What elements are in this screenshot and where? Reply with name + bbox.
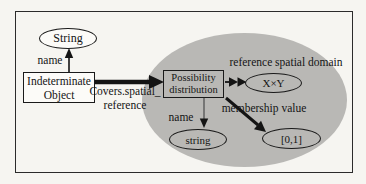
- node-spatial-domain: X×Y: [245, 73, 302, 93]
- node-possibility-distribution-label-line1: Possibility: [171, 72, 215, 85]
- node-unit-interval: [0,1]: [262, 128, 321, 149]
- name-arrow-top: [65, 48, 73, 72]
- node-spatial-domain-label: X×Y: [262, 77, 284, 89]
- label-covers-line1: Covers.spatial_: [89, 85, 160, 97]
- label-name-top: name: [38, 54, 63, 68]
- node-string-class-label: String: [53, 31, 82, 46]
- label-covers-spatial-reference: Covers.spatial_ reference: [89, 85, 160, 112]
- scanned-diagram-page: String Indeterminate Object Possibility …: [0, 0, 366, 184]
- node-unit-interval-label: [0,1]: [281, 133, 302, 145]
- node-indeterminate-object-label-line1: Indeterminate: [27, 74, 91, 88]
- node-string-class: String: [39, 28, 97, 49]
- label-reference-spatial-domain: reference spatial domain: [229, 56, 342, 70]
- name-arrow-bottom: [200, 98, 208, 128]
- node-possibility-distribution-label-line2: distribution: [169, 84, 217, 97]
- node-name-type: string: [169, 129, 227, 150]
- node-indeterminate-object: Indeterminate Object: [23, 72, 95, 103]
- node-possibility-distribution: Possibility distribution: [163, 70, 224, 98]
- node-indeterminate-object-label-line2: Object: [44, 88, 75, 102]
- node-name-type-label: string: [185, 134, 210, 146]
- label-membership-value: membership value: [222, 102, 307, 116]
- label-covers-line2: reference: [89, 98, 160, 112]
- label-name-bottom: name: [169, 111, 194, 125]
- reference-spatial-domain-arrow: [225, 77, 247, 86]
